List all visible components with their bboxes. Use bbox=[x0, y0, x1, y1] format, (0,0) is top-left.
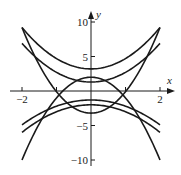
y-axis-arrow-icon bbox=[88, 11, 94, 19]
x-axis-label: x bbox=[166, 74, 172, 86]
axes-group bbox=[10, 11, 175, 166]
y-tick-label: −5 bbox=[76, 120, 88, 132]
x-tick-label: −2 bbox=[16, 93, 28, 105]
y-axis-label: y bbox=[95, 8, 101, 20]
x-tick-label: 2 bbox=[157, 93, 163, 105]
y-tick-label: 10 bbox=[77, 16, 89, 28]
y-tick-label: −10 bbox=[71, 154, 89, 166]
x-axis-arrow-icon bbox=[167, 88, 175, 94]
chart-canvas: −22105−5−10 x y bbox=[0, 0, 181, 175]
y-tick-label: 5 bbox=[83, 51, 89, 63]
